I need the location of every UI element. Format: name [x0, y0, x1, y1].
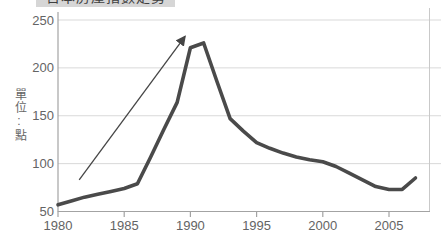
gridlines	[58, 8, 441, 212]
x-tick-label: 1985	[104, 218, 144, 233]
chart-area: 日本房產指數走勢 單位:點 50100150200250 19801985199…	[0, 0, 441, 235]
y-tick-label: 150	[20, 108, 54, 123]
x-tick-label: 1980	[38, 218, 78, 233]
index-trend-line	[58, 43, 415, 205]
trend-annotation-arrow	[79, 36, 185, 180]
x-tick-label: 1995	[237, 218, 277, 233]
axis-ticks	[58, 212, 389, 218]
x-tick-label: 2005	[369, 218, 409, 233]
x-tick-label: 1990	[170, 218, 210, 233]
y-tick-label: 50	[20, 204, 54, 219]
y-tick-label: 250	[20, 13, 54, 28]
y-tick-label: 100	[20, 156, 54, 171]
line-chart-plot	[0, 0, 441, 235]
y-tick-label: 200	[20, 60, 54, 75]
axes	[58, 12, 430, 212]
x-tick-label: 2000	[303, 218, 343, 233]
